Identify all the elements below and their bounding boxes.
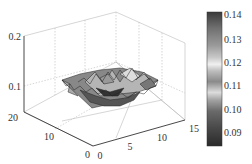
x-tick: 0: [98, 150, 103, 161]
x-tick: 5: [128, 141, 133, 152]
colorbar-tick: 0.09: [224, 127, 242, 138]
colorbar-tick: 0.12: [224, 57, 242, 68]
x-tick: 10: [157, 132, 167, 143]
colorbar: [207, 12, 222, 146]
y-tick: 20: [8, 112, 18, 123]
colorbar-tick: 0.13: [224, 34, 242, 45]
z-tick: 0.1: [9, 81, 22, 92]
x-axis-ticks: 0 5 10 15: [98, 123, 200, 161]
colorbar-ticks: 0.14 0.13 0.12 0.11 0.10 0.09: [224, 9, 242, 138]
surface-mesh: [62, 68, 158, 108]
y-tick: 0: [85, 149, 90, 160]
colorbar-tick: 0.11: [224, 80, 241, 91]
y-tick: 10: [44, 131, 54, 142]
surface-chart: 0.2 0.1 20 10 0 0 5 10 15 0.14: [0, 0, 252, 164]
x-tick: 15: [189, 123, 199, 134]
z-axis-ticks: 0.2 0.1: [9, 31, 22, 92]
colorbar-tick: 0.14: [224, 9, 242, 20]
z-tick: 0.2: [9, 31, 22, 42]
y-axis-ticks: 20 10 0: [8, 112, 90, 160]
colorbar-tick: 0.10: [224, 104, 242, 115]
